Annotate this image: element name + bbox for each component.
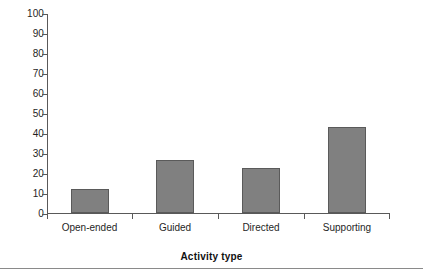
y-axis-line <box>47 14 48 214</box>
y-axis-tick-10 <box>42 194 47 195</box>
x-tick-label-directed: Directed <box>218 222 304 234</box>
x-axis-tick-0 <box>47 214 48 219</box>
x-axis-tick-1 <box>132 214 133 219</box>
y-tick-label-40: 40 <box>8 129 44 139</box>
y-tick-label-10: 10 <box>8 189 44 199</box>
y-tick-label-50: 50 <box>8 109 44 119</box>
y-tick-label-0: 0 <box>8 209 44 219</box>
y-axis-tick-30 <box>42 154 47 155</box>
bar-guided <box>156 160 194 213</box>
y-tick-label-70: 70 <box>8 69 44 79</box>
bar-open-ended <box>71 189 109 213</box>
x-tick-label-guided: Guided <box>132 222 218 234</box>
bar-directed <box>242 168 280 213</box>
bar-supporting <box>328 127 366 213</box>
y-tick-label-80: 80 <box>8 49 44 59</box>
y-tick-label-100: 100 <box>8 9 44 19</box>
x-axis-tick-3 <box>304 214 305 219</box>
y-axis-tick-90 <box>42 34 47 35</box>
x-tick-label-open-ended: Open-ended <box>47 222 132 234</box>
x-axis-title: Activity type <box>0 251 423 262</box>
x-axis-tick-4 <box>389 214 390 219</box>
y-axis-tick-70 <box>42 74 47 75</box>
y-axis-tick-50 <box>42 114 47 115</box>
bar-chart-figure: 100 90 80 70 60 50 40 30 20 10 0 Op <box>0 0 423 280</box>
plot-area <box>47 14 390 214</box>
x-axis-tick-2 <box>218 214 219 219</box>
y-tick-label-20: 20 <box>8 169 44 179</box>
y-axis-tick-80 <box>42 54 47 55</box>
y-tick-label-90: 90 <box>8 29 44 39</box>
footer-divider <box>0 268 423 269</box>
y-axis-tick-40 <box>42 134 47 135</box>
y-axis-tick-100 <box>42 14 47 15</box>
y-tick-label-60: 60 <box>8 89 44 99</box>
y-axis-tick-60 <box>42 94 47 95</box>
y-axis-tick-20 <box>42 174 47 175</box>
y-tick-label-30: 30 <box>8 149 44 159</box>
x-tick-label-supporting: Supporting <box>304 222 390 234</box>
